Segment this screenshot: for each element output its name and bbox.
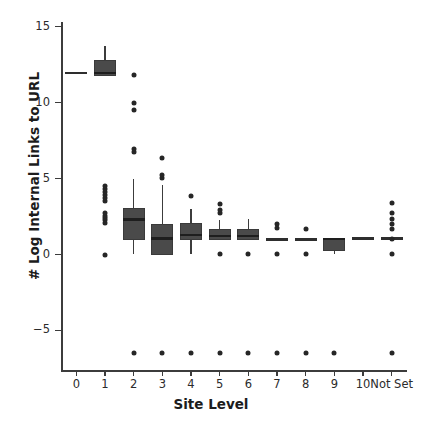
outlier-point bbox=[389, 251, 394, 256]
x-tick-label: 8 bbox=[302, 379, 309, 391]
x-tick-mark bbox=[248, 371, 250, 376]
box-body bbox=[123, 208, 145, 240]
outlier-point bbox=[103, 184, 108, 189]
x-tick-label: 9 bbox=[331, 379, 338, 391]
outlier-point bbox=[275, 351, 280, 356]
outlier-point bbox=[389, 351, 394, 356]
outlier-point bbox=[389, 200, 394, 205]
x-tick-label: 1 bbox=[101, 379, 108, 391]
x-tick-mark bbox=[133, 371, 135, 376]
outlier-point bbox=[103, 211, 108, 216]
outlier-point bbox=[246, 251, 251, 256]
box-flat-line bbox=[266, 238, 288, 241]
x-tick-mark bbox=[305, 371, 307, 376]
outlier-point bbox=[389, 222, 394, 227]
outlier-point bbox=[131, 108, 136, 113]
outlier-point bbox=[103, 252, 108, 257]
y-tick-mark bbox=[55, 102, 61, 104]
median-line bbox=[180, 234, 202, 236]
box-flat-line bbox=[295, 238, 317, 241]
x-axis-label: Site Level bbox=[0, 396, 422, 412]
x-tick-mark bbox=[391, 371, 393, 376]
box-plot-figure: 151050−5 012345678910Not Set Site Level … bbox=[0, 0, 422, 421]
median-line bbox=[237, 235, 259, 237]
x-tick-label: 3 bbox=[159, 379, 166, 391]
y-tick-mark bbox=[55, 330, 61, 332]
x-tick-label: 6 bbox=[245, 379, 252, 391]
outlier-point bbox=[131, 101, 136, 106]
box-flat-line bbox=[352, 237, 374, 240]
whisker-lower bbox=[133, 240, 135, 254]
x-tick-mark bbox=[190, 371, 192, 376]
whisker-upper bbox=[219, 220, 221, 230]
whisker-upper bbox=[133, 179, 135, 209]
whisker-upper bbox=[190, 209, 192, 223]
outlier-point bbox=[389, 236, 394, 241]
x-axis-spine bbox=[61, 370, 407, 372]
outlier-point bbox=[217, 201, 222, 206]
outlier-point bbox=[160, 172, 165, 177]
plot-area bbox=[62, 22, 406, 370]
whisker-upper bbox=[162, 185, 164, 224]
x-tick-mark bbox=[334, 371, 336, 376]
outlier-point bbox=[160, 351, 165, 356]
outlier-point bbox=[189, 194, 194, 199]
box-flat-line bbox=[65, 72, 87, 75]
y-tick-label: 0 bbox=[43, 249, 50, 261]
whisker-upper bbox=[104, 46, 106, 60]
outlier-point bbox=[303, 251, 308, 256]
outlier-point bbox=[303, 351, 308, 356]
x-tick-mark bbox=[104, 371, 106, 376]
x-tick-mark bbox=[162, 371, 164, 376]
outlier-point bbox=[189, 351, 194, 356]
x-tick-label: 5 bbox=[216, 379, 223, 391]
median-line bbox=[94, 72, 116, 74]
median-line bbox=[209, 235, 231, 237]
outlier-point bbox=[275, 251, 280, 256]
outlier-point bbox=[246, 351, 251, 356]
x-tick-mark bbox=[362, 371, 364, 376]
outlier-point bbox=[217, 251, 222, 256]
y-tick-mark bbox=[55, 254, 61, 256]
outlier-point bbox=[389, 216, 394, 221]
y-tick-label: −5 bbox=[33, 324, 50, 336]
outlier-point bbox=[131, 351, 136, 356]
outlier-point bbox=[275, 222, 280, 227]
box-body bbox=[180, 223, 202, 240]
x-tick-label: 0 bbox=[73, 379, 80, 391]
outlier-point bbox=[217, 351, 222, 356]
median-line bbox=[323, 238, 345, 240]
x-tick-mark bbox=[219, 371, 221, 376]
outlier-point bbox=[389, 210, 394, 215]
median-line bbox=[151, 237, 173, 239]
x-tick-label: Not Set bbox=[370, 379, 413, 391]
outlier-point bbox=[389, 227, 394, 232]
x-tick-mark bbox=[276, 371, 278, 376]
outlier-point bbox=[303, 226, 308, 231]
outlier-point bbox=[160, 156, 165, 161]
y-tick-mark bbox=[55, 26, 61, 28]
x-tick-label: 10 bbox=[356, 379, 371, 391]
y-tick-mark bbox=[55, 178, 61, 180]
median-line bbox=[123, 218, 145, 220]
outlier-point bbox=[131, 73, 136, 78]
x-tick-label: 2 bbox=[130, 379, 137, 391]
outlier-point bbox=[332, 351, 337, 356]
x-tick-mark bbox=[76, 371, 78, 376]
x-tick-label: 4 bbox=[187, 379, 194, 391]
y-tick-label: 5 bbox=[43, 173, 50, 185]
y-axis-label: # Log Internal Links to URL bbox=[26, 26, 42, 326]
x-tick-label: 7 bbox=[273, 379, 280, 391]
outlier-point bbox=[131, 146, 136, 151]
whisker-upper bbox=[248, 219, 250, 230]
whisker-lower bbox=[334, 251, 336, 253]
outlier-point bbox=[217, 207, 222, 212]
whisker-lower bbox=[190, 240, 192, 254]
